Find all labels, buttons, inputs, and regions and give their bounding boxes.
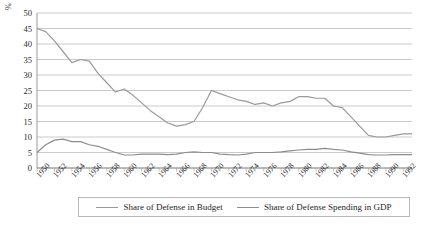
defense-share-line-chart: % 05101520253035404550 19501952195419561… bbox=[0, 0, 422, 232]
data-series-layer bbox=[37, 29, 412, 155]
legend-label-gdp: Share of Defense Spending in GDP bbox=[264, 202, 392, 212]
legend-entry-gdp: Share of Defense Spending in GDP bbox=[237, 202, 392, 212]
legend-line-swatch-icon bbox=[237, 207, 259, 208]
series-line bbox=[37, 29, 412, 138]
legend-entry-budget: Share of Defense in Budget bbox=[96, 202, 222, 212]
legend-label-budget: Share of Defense in Budget bbox=[123, 202, 222, 212]
gridlines bbox=[37, 13, 412, 168]
chart-legend: Share of Defense in Budget Share of Defe… bbox=[78, 197, 410, 217]
legend-line-swatch-icon bbox=[96, 207, 118, 208]
